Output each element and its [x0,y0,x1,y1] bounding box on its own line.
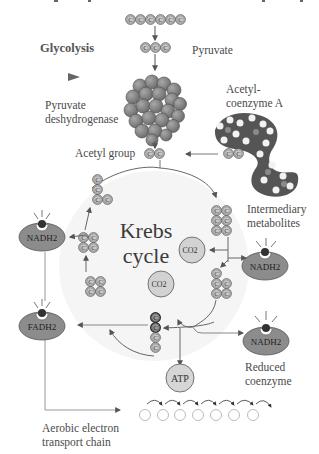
electron-transport-label-line2: transport chain [42,436,111,449]
nadh2-left-coenzyme: NADH2 [19,210,65,251]
krebs-cycle-title-line1: Krebs [116,218,176,243]
pyruvate-dehydrogenase-label-line2: deshydrogenase [45,113,118,126]
nadh2-left-label: NADH2 [27,233,58,243]
fadh2-label: FADH2 [28,322,56,332]
acetyl-coa-label-line2: coenzyme A [226,97,283,110]
co2-molecule-b: CO2 [148,271,174,297]
pyruvate-dehydrogenase-label-line1: Pyruvate [45,99,86,112]
nadh2-right-coenzyme: NADH2 [242,238,288,280]
acetyl-group-label: Acetyl group [75,147,135,160]
fadh2-coenzyme: FADH2 [19,299,65,340]
intermediary-metabolites-label-line2: metabolites [247,217,300,230]
nadh2-bottom-right-label: NADH2 [251,337,282,347]
atp-label: ATP [171,373,189,384]
electron-transport-chain [140,400,272,420]
acetyl-coa-two-carbon [224,149,244,159]
glycolysis-triangle-icon [68,73,80,81]
cropped-header-text [54,0,303,2]
co2-molecule-a: CO2 [179,237,205,263]
glycolysis-label: Glycolysis [40,42,94,55]
nadh2-right-label: NADH2 [250,262,281,272]
electron-transport-label-line1: Aerobic electron [42,422,119,435]
atp-molecule: ATP [166,364,194,392]
metabolite-right-upper [212,206,232,236]
acetyl-group-two-carbon [145,149,165,159]
co2-label-a: CO2 [182,246,197,255]
co2-label-b: CO2 [151,280,166,289]
krebs-cycle-title-line2: cycle [116,243,176,268]
acetyl-coa-label-line1: Acetyl- [226,83,260,96]
nadh2-bottom-right-coenzyme: NADH2 [243,311,289,355]
reduced-coenzyme-label-line1: Reduced [245,361,285,374]
intermediary-metabolites-label-line1: Intermediary [247,203,306,216]
pyruvate-three-carbon-chain [141,43,171,53]
pyruvate-dehydrogenase-complex-icon [124,75,187,146]
glucose-six-carbon-chain [126,15,186,25]
pyruvate-label: Pyruvate [192,44,233,57]
reduced-coenzyme-label-line2: coenzyme [245,375,292,388]
